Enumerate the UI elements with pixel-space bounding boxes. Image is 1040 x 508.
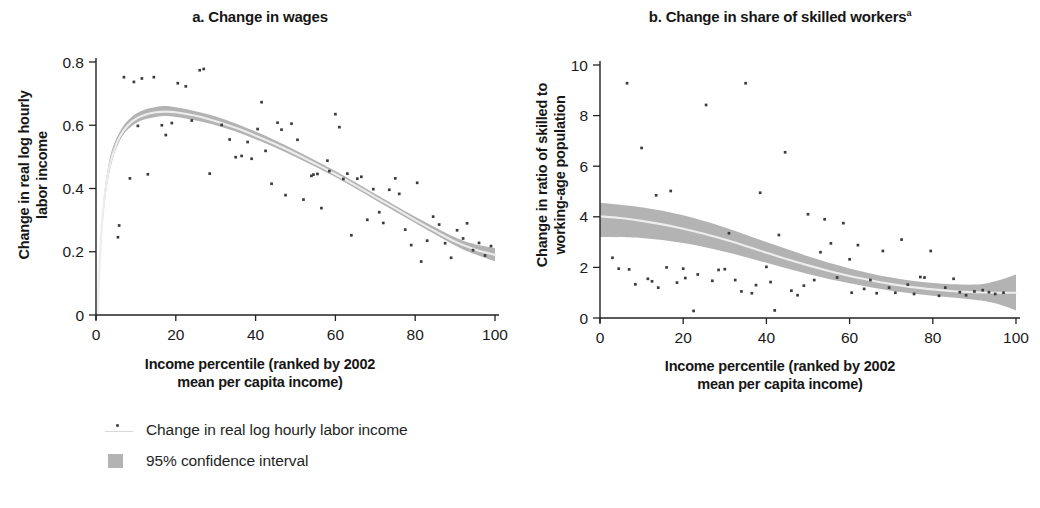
scatter-point: [312, 173, 315, 176]
scatter-point: [280, 128, 283, 131]
y-tick-label: 0.2: [62, 243, 84, 260]
y-tick-label: 0: [75, 307, 84, 324]
scatter-point: [270, 182, 273, 185]
x-tick-label: 80: [924, 329, 942, 346]
scatter-point: [444, 242, 447, 245]
scatter-point: [208, 172, 211, 175]
scatter-point: [276, 121, 279, 124]
scatter-point: [450, 256, 453, 259]
scatter-point: [740, 290, 743, 293]
scatter-point: [813, 279, 816, 282]
scatter-point: [684, 277, 687, 280]
scatter-point: [836, 276, 839, 279]
scatter-point: [326, 159, 329, 162]
scatter-point: [790, 289, 793, 292]
scatter-point: [988, 291, 991, 294]
scatter-point: [796, 294, 799, 297]
panel-a-legend-item-ci: 95% confidence interval: [104, 451, 408, 470]
panel-a-x-axis-title-line1: Income percentile (ranked by 2002: [0, 356, 520, 374]
scatter-point: [184, 85, 187, 88]
scatter-point: [137, 125, 140, 128]
scatter-point: [478, 242, 481, 245]
scatter-point: [894, 291, 897, 294]
scatter-point: [123, 76, 126, 79]
scatter-point: [952, 277, 955, 280]
scatter-point: [388, 188, 391, 191]
scatter-point: [705, 104, 708, 107]
axes: 0204060801000246810: [571, 57, 1030, 347]
x-tick-label: 0: [92, 326, 101, 343]
scatter-point: [466, 222, 469, 225]
scatter-point: [634, 283, 637, 286]
y-tick-label: 10: [571, 57, 589, 74]
scatter-point: [669, 190, 672, 193]
scatter-point: [778, 234, 781, 237]
scatter-point: [646, 277, 649, 280]
scatter-point: [611, 256, 614, 259]
scatter-point: [973, 290, 976, 293]
scatter-point: [784, 151, 787, 154]
scatter-point: [378, 211, 381, 214]
scatter-point: [655, 194, 658, 197]
scatter-point: [416, 181, 419, 184]
scatter-point: [394, 177, 397, 180]
scatter-point: [769, 281, 772, 284]
confidence-interval-band: [98, 106, 495, 315]
panel-a-plot: 02040608010000.20.40.60.8: [0, 0, 520, 350]
x-tick-label: 20: [675, 329, 693, 346]
y-tick-label: 0.4: [62, 180, 84, 197]
scatter-point: [456, 229, 459, 232]
scatter-point: [657, 286, 660, 289]
y-tick-label: 0.8: [62, 54, 84, 71]
scatter-point: [320, 207, 323, 210]
scatter-point: [164, 134, 167, 137]
scatter-point: [240, 155, 243, 158]
panel-a-legend-label-series: Change in real log hourly labor income: [146, 420, 408, 439]
scatter-point: [316, 173, 319, 176]
panel-b-x-axis-title-line2: mean per capita income): [520, 376, 1040, 394]
scatter-point: [640, 147, 643, 150]
axes: 02040608010000.20.40.60.8: [62, 54, 508, 344]
scatter-point: [857, 244, 860, 247]
scatter-point: [919, 276, 922, 279]
scatter-point: [356, 177, 359, 180]
scatter-point: [334, 113, 337, 116]
panel-a-x-axis-title-line2: mean per capita income): [0, 374, 520, 392]
scatter-point: [981, 289, 984, 292]
panel-a-legend-label-ci: 95% confidence interval: [146, 451, 308, 470]
scatter-point: [328, 170, 331, 173]
panel-b-x-axis-title-line1: Income percentile (ranked by 2002: [520, 358, 1040, 376]
scatter-point: [938, 294, 941, 297]
scatter-point: [264, 150, 267, 153]
scatter-point: [462, 237, 465, 240]
scatter-point: [360, 175, 363, 178]
scatter-point: [410, 244, 413, 247]
scatter-point: [284, 194, 287, 197]
scatter-point: [848, 258, 851, 261]
panel-a-legend: Change in real log hourly labor income 9…: [104, 420, 408, 483]
scatter-point: [929, 250, 932, 253]
scatter-point: [176, 82, 179, 85]
scatter-point: [141, 77, 144, 80]
scatter-point: [696, 273, 699, 276]
scatter-point: [682, 267, 685, 270]
x-tick-label: 40: [247, 326, 265, 343]
scatter-point: [617, 267, 620, 270]
scatter-point: [342, 178, 345, 181]
scatter-point: [117, 236, 120, 239]
x-tick-label: 60: [327, 326, 345, 343]
scatter-point: [160, 124, 163, 127]
panel-a-x-axis-title: Income percentile (ranked by 2002 mean p…: [0, 356, 520, 391]
scatter-point: [807, 213, 810, 216]
x-tick-label: 100: [1003, 329, 1029, 346]
scatter-point: [723, 268, 726, 271]
scatter-point: [220, 124, 223, 127]
scatter-point: [234, 156, 237, 159]
scatter-point: [734, 279, 737, 282]
scatter-point: [438, 223, 441, 226]
scatter-point: [202, 68, 205, 71]
scatter-point: [773, 309, 776, 312]
scatter-point: [372, 188, 375, 191]
scatter-point: [765, 266, 768, 269]
scatter-point: [129, 177, 132, 180]
